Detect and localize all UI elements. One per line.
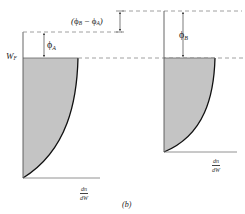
figure-caption: (b) [122, 201, 131, 209]
phi-difference-label: (ϕB − ϕA) [71, 17, 103, 27]
phi-a-label: ϕA [47, 40, 56, 51]
work-function-diagram: WF ϕA (ϕB − ϕA) ϕB dn dW dn dW (b) [0, 0, 245, 214]
left-occupied-states-fill [23, 58, 78, 178]
fermi-level-label: WF [6, 52, 17, 62]
left-x-axis-label: dn dW [80, 186, 88, 201]
diagram-graphics [0, 0, 245, 214]
phi-b-label: ϕB [179, 30, 188, 41]
right-x-axis-label: dn dW [212, 158, 220, 173]
